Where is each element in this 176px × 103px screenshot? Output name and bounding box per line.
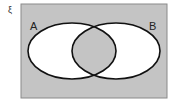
set-b-label: B <box>149 20 156 32</box>
universal-set-symbol: ξ <box>8 5 12 15</box>
venn-diagram: ξ A B <box>0 0 176 103</box>
set-a-label: A <box>30 20 38 32</box>
